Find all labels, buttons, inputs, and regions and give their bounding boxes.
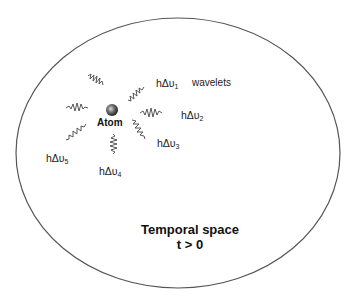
wavelet-1-icon [128,87,144,101]
emission-5-symbol: hΔυ [46,152,65,164]
container-label: Temporal space [120,222,260,237]
wavelet-2-icon [140,108,162,117]
emission-4-subscript: 4 [118,171,122,178]
emission-1-subscript: 1 [175,83,179,90]
emission-4-symbol: hΔυ [99,165,118,177]
emission-label-5: hΔυ5 [46,153,69,165]
atom-label: Atom [97,118,123,128]
emission-label-4: hΔυ4 [99,166,122,178]
time-condition: t > 0 [120,237,260,252]
emission-2-subscript: 2 [200,115,204,122]
wavelet-left-icon [66,103,88,111]
wavelet-5-icon [66,124,86,140]
emission-label-3: hΔυ3 [157,138,180,150]
atom-sphere-icon [106,104,118,116]
emission-label-1: hΔυ1 [156,78,179,90]
emission-2-symbol: hΔυ [181,109,200,121]
temporal-space-title: Temporal space t > 0 [120,222,260,252]
emission-label-2: hΔυ2 [181,110,204,122]
emission-3-symbol: hΔυ [157,137,176,149]
emission-5-subscript: 5 [65,158,69,165]
wavelets-label: wavelets [192,78,231,88]
wavelet-upper-left-icon [88,74,103,85]
wavelet-3-icon [132,120,145,139]
wavelet-4-icon [110,134,117,154]
emission-1-symbol: hΔυ [156,77,175,89]
emission-3-subscript: 3 [176,143,180,150]
